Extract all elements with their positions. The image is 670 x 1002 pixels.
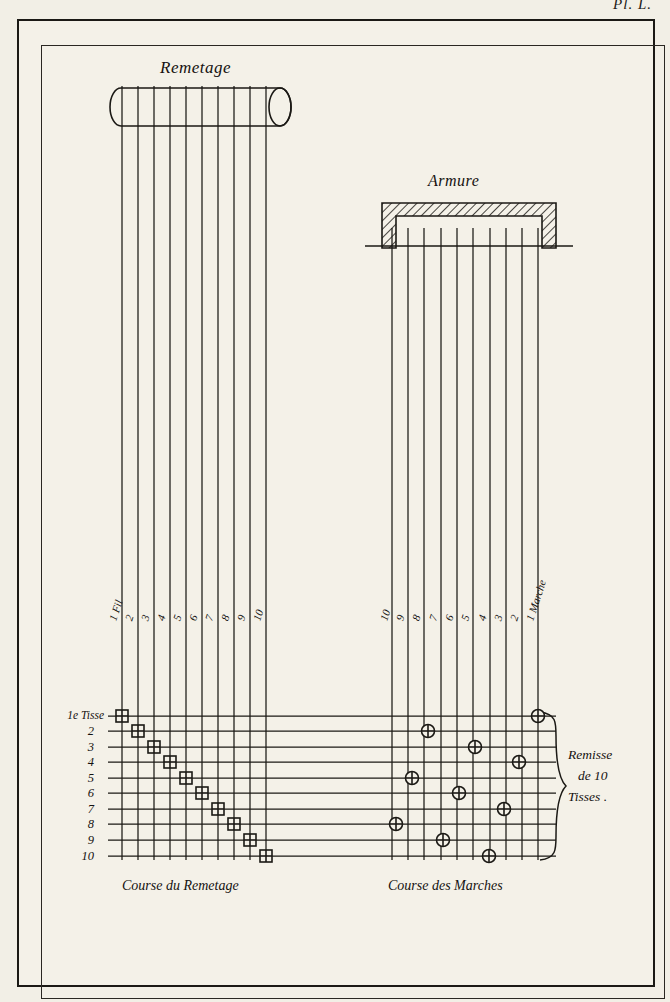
tissee-row-label-4: 4 bbox=[34, 755, 94, 770]
remisse-line-3: Tisses . bbox=[568, 786, 612, 807]
caption-course-du-remetage: Course du Remetage bbox=[122, 878, 239, 894]
caption-armure: Armure bbox=[428, 172, 479, 190]
tissee-row-label-7: 7 bbox=[34, 802, 94, 817]
tissee-row-label-5: 5 bbox=[34, 771, 94, 786]
tissee-row-label-6: 6 bbox=[34, 786, 94, 801]
caption-course-des-marches: Course des Marches bbox=[388, 878, 503, 894]
tissee-row-label-2: 2 bbox=[34, 724, 94, 739]
tissee-row-label-3: 3 bbox=[34, 740, 94, 755]
remisse-line-1: Remisse bbox=[568, 744, 612, 765]
tissee-row-label-10: 10 bbox=[34, 849, 94, 864]
remisse-brace-label: Remisse de 10 Tisses . bbox=[568, 744, 612, 807]
plate-frame-outer bbox=[17, 19, 655, 987]
plate-frame-inner bbox=[41, 45, 665, 999]
caption-remetage: Remetage bbox=[160, 58, 231, 78]
remisse-line-2: de 10 bbox=[568, 765, 612, 786]
tissee-row-label-1: 1e Tisse bbox=[34, 709, 104, 721]
plate-number-label: Pl. L. bbox=[613, 0, 652, 13]
engraving-plate: Pl. L. bbox=[0, 0, 670, 1002]
tissee-row-label-8: 8 bbox=[34, 817, 94, 832]
tissee-row-label-9: 9 bbox=[34, 833, 94, 848]
